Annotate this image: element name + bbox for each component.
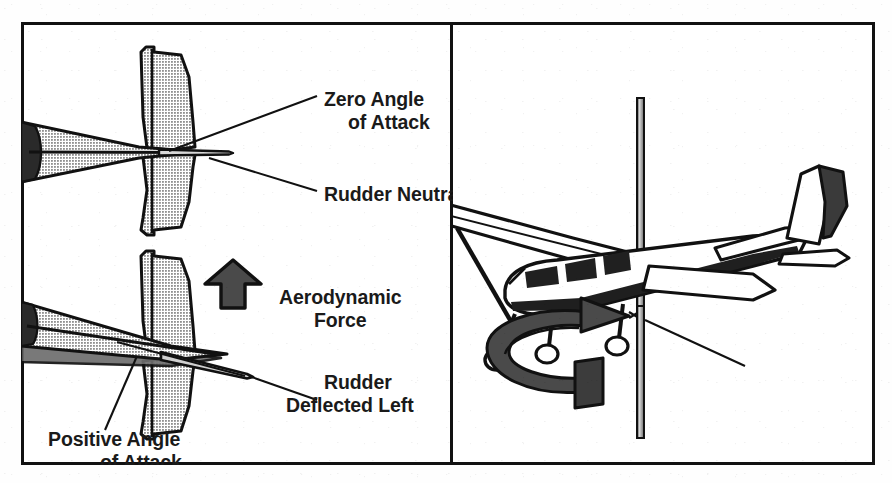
label-rudder-deflected-left: RudderDeflected Left — [324, 371, 414, 416]
label-zero-angle-of-attack: Zero Angleof Attack — [324, 88, 430, 133]
fin-lower-yawed — [141, 357, 195, 439]
label-aerodynamic-force: AerodynamicForce — [279, 286, 401, 331]
leader-positive-angle — [105, 356, 137, 430]
aerodynamic-force-arrow — [205, 260, 261, 308]
label-positive-angle-line2: of Attack — [100, 451, 182, 465]
right-panel: Vertical Axis — [453, 22, 875, 465]
nose-cap-lower — [21, 302, 38, 346]
leader-vertical-axis — [645, 320, 745, 366]
right-wheel — [606, 337, 628, 355]
fin-lower — [141, 153, 195, 235]
left-panel: Zero Angleof Attack Rudder Neutral Aerod… — [21, 22, 453, 465]
leader-rudder-neutral — [209, 158, 317, 191]
right-gear-leg — [619, 304, 623, 338]
cropped-caption-sliver — [60, 474, 850, 483]
label-aerodynamic-line2: Force — [279, 309, 401, 332]
label-rudder-deflected-line1: Rudder — [324, 371, 392, 393]
label-zero-angle-line1: Zero Angle — [324, 88, 424, 110]
rotation-ribbon-tail — [575, 358, 603, 408]
right-wing — [643, 266, 775, 300]
label-rudder-deflected-line2: Deflected Left — [286, 394, 414, 417]
aircraft-top-view-neutral — [21, 47, 317, 235]
label-positive-angle-line1: Positive Angle — [48, 428, 180, 450]
label-positive-angle-of-attack: Positive Angleof Attack — [48, 428, 182, 465]
fin-upper — [141, 47, 195, 150]
nose-wheel — [536, 345, 558, 363]
aircraft-top-view-yawed — [21, 251, 317, 439]
right-panel-artwork — [453, 22, 875, 465]
label-aerodynamic-line1: Aerodynamic — [279, 286, 401, 308]
vertical-axis-rod-foreground — [637, 306, 644, 438]
label-zero-angle-line2: of Attack — [348, 111, 430, 134]
figure-page: Zero Angleof Attack Rudder Neutral Aerod… — [0, 0, 892, 483]
force-arrow-shape — [205, 260, 261, 308]
label-rudder-neutral: Rudder Neutral — [324, 183, 453, 206]
horizontal-stabilizer-right — [779, 250, 849, 266]
